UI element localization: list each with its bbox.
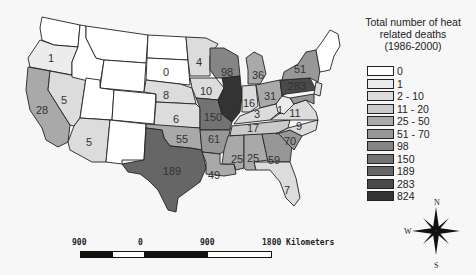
legend-label: 98	[397, 140, 409, 152]
legend-item: 25 - 50	[367, 115, 430, 128]
label-fl: 7	[284, 184, 290, 196]
legend-title-line: (1986-2000)	[353, 40, 473, 52]
legend-item: 98	[367, 140, 430, 153]
legend-swatch	[367, 116, 394, 126]
label-mn: 4	[196, 56, 202, 68]
legend-item: 51 - 70	[367, 128, 430, 141]
legend-title-line: Total number of heat	[353, 16, 473, 28]
legend-swatch	[367, 179, 394, 189]
label-ks: 6	[173, 113, 179, 125]
label-ne: 8	[163, 89, 169, 101]
state-north-dakota	[147, 35, 188, 60]
legend-title: Total number of heat related deaths (198…	[353, 16, 473, 52]
scale-tick-label: 900	[72, 238, 86, 247]
legend-item: 11 - 20	[367, 103, 430, 116]
scale-tick-label: 1800 Kilometers	[262, 238, 334, 247]
legend-swatch	[367, 129, 394, 139]
legend-swatch	[367, 79, 394, 89]
label-mi: 36	[252, 69, 264, 81]
label-az: 5	[86, 136, 92, 148]
legend: Total number of heat related deaths (198…	[353, 16, 473, 52]
legend-label: 283	[397, 178, 415, 190]
legend-item: 1	[367, 78, 430, 91]
label-al: 25	[247, 152, 259, 164]
legend-title-line: related deaths	[353, 28, 473, 40]
label-va: 11	[289, 107, 300, 119]
state-colorado	[112, 90, 156, 124]
legend-swatch	[367, 191, 394, 201]
label-pa: 283	[288, 80, 306, 92]
label-nv: 5	[61, 94, 67, 106]
legend-item: 150	[367, 153, 430, 166]
legend-item: 283	[367, 178, 430, 191]
legend-label: 150	[397, 153, 415, 165]
label-ca: 28	[36, 104, 48, 116]
scale-bar: 900 0 900 1800 Kilometers	[60, 238, 360, 250]
compass-rose: N W S	[404, 198, 474, 272]
label-sc: 70	[284, 135, 296, 147]
legend-label: 189	[397, 165, 415, 177]
state-new-england	[316, 30, 340, 72]
label-wi: 98	[221, 66, 233, 78]
legend-label: 11 - 20	[397, 103, 429, 115]
legend-swatch	[367, 104, 394, 114]
legend-label: 51 - 70	[397, 128, 430, 140]
legend-item: 189	[367, 165, 430, 178]
label-or: 1	[48, 52, 54, 64]
label-ky: 3	[254, 108, 260, 120]
compass-star-icon	[404, 198, 474, 272]
legend-item: 0	[367, 65, 430, 78]
label-ny: 51	[294, 63, 306, 75]
legend-swatch	[367, 66, 394, 76]
state-florida	[254, 162, 300, 206]
label-oh: 31	[264, 90, 276, 102]
scale-labels: 900 0 900 1800 Kilometers	[60, 238, 360, 250]
label-ok: 55	[176, 133, 188, 145]
label-sd: 0	[163, 66, 169, 78]
legend-item: 2 - 10	[367, 90, 430, 103]
label-nc: 9	[296, 120, 302, 132]
label-ms: 25	[231, 153, 243, 165]
legend-label: 2 - 10	[397, 90, 424, 102]
label-mo: 150	[204, 111, 222, 123]
legend-swatch	[367, 141, 394, 151]
label-ga: 59	[268, 154, 280, 166]
legend-items: 0 1 2 - 10 11 - 20 25 - 50 51 - 70 98 15…	[367, 65, 430, 203]
scale-tick-label: 900	[200, 238, 214, 247]
label-la: 49	[208, 169, 220, 181]
label-tx: 189	[163, 165, 181, 177]
label-ar: 61	[208, 133, 220, 145]
legend-label: 1	[397, 78, 403, 90]
state-montana	[86, 26, 148, 63]
label-wv: 1	[277, 104, 283, 116]
legend-label: 25 - 50	[397, 115, 430, 127]
state-new-mexico	[106, 120, 146, 164]
legend-swatch	[367, 91, 394, 101]
label-tn: 17	[247, 122, 259, 134]
scale-tick-label: 0	[138, 238, 143, 247]
legend-swatch	[367, 154, 394, 164]
state-wyoming	[100, 60, 146, 92]
scale-bar-graphic	[80, 251, 272, 258]
state-new-jersey	[314, 82, 322, 96]
legend-swatch	[367, 166, 394, 176]
legend-label: 0	[397, 65, 403, 77]
label-il: 824	[221, 96, 239, 108]
label-ia: 10	[200, 85, 212, 97]
